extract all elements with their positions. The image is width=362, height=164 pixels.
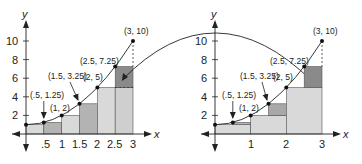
right-rect-3-extra xyxy=(304,67,322,88)
left-y-tick-6: 6 xyxy=(12,72,18,84)
right-y-tick-6: 6 xyxy=(201,72,207,84)
right-rect-1 xyxy=(215,125,251,134)
left-x-axis-arrow-left xyxy=(12,131,20,137)
riemann-sum-diagram: x y 2 4 6 8 10 .5 1 1.5 2 2.5 3 xyxy=(0,0,362,164)
left-x-tick-3: 3 xyxy=(130,138,136,150)
left-rect-2 xyxy=(44,122,62,134)
right-y-axis-arrow-up xyxy=(212,20,218,28)
left-point-label-3: (3, 10) xyxy=(124,26,149,36)
right-rect-2 xyxy=(251,115,287,134)
right-y-tick-2: 2 xyxy=(201,109,207,121)
right-x-ticks: 1 2 3 xyxy=(248,138,325,150)
left-x-tick-1: 1 xyxy=(59,138,65,150)
left-x-axis-arrow-right xyxy=(144,131,152,137)
right-y-axis-label: y xyxy=(210,8,218,20)
right-y-tick-10: 10 xyxy=(195,35,207,47)
left-y-axis-label: y xyxy=(21,8,29,20)
right-point-label-0.5: (.5, 1.25) xyxy=(222,90,256,100)
right-x-axis-arrow-right xyxy=(333,131,341,137)
right-point-label-2: (2, 5) xyxy=(273,72,293,82)
left-point-label-1: (1, 2) xyxy=(50,103,70,113)
left-chart: x y 2 4 6 8 10 .5 1 1.5 2 2.5 3 xyxy=(6,8,160,152)
right-point-label-3: (3, 10) xyxy=(313,26,338,36)
left-y-tick-8: 8 xyxy=(12,54,18,66)
left-rect-6-base xyxy=(115,88,133,135)
right-x-axis-arrow-left xyxy=(201,131,209,137)
left-point-label-2.5: (2.5, 7.25) xyxy=(80,56,119,66)
left-point-label-0.5: (.5, 1.25) xyxy=(30,90,64,100)
left-x-tick-1.5: 1.5 xyxy=(72,138,87,150)
right-point-label-1: (1, 2) xyxy=(239,103,259,113)
left-y-axis-arrow-down xyxy=(23,144,29,152)
right-rect-1-extra xyxy=(233,122,251,124)
left-y-axis-arrow-up xyxy=(23,20,29,28)
left-rect-4 xyxy=(80,104,98,134)
left-x-tick-0.5: .5 xyxy=(41,138,50,150)
left-point-label-1.5: (1.5, 3.25) xyxy=(48,71,87,81)
right-pointer-1.5 xyxy=(262,82,267,100)
right-x-tick-2: 2 xyxy=(283,138,289,150)
right-point-label-2.5: (2.5, 7.25) xyxy=(270,56,309,66)
right-x-tick-3: 3 xyxy=(319,138,325,150)
right-y-tick-8: 8 xyxy=(201,54,207,66)
right-x-tick-1: 1 xyxy=(248,138,254,150)
right-rect-3 xyxy=(286,88,322,135)
left-rect-1 xyxy=(26,125,44,134)
left-rect-5 xyxy=(97,88,115,135)
left-point-label-2: (2, 5) xyxy=(83,72,103,82)
right-x-axis-label: x xyxy=(342,128,349,140)
left-y-tick-10: 10 xyxy=(6,35,18,47)
left-y-tick-4: 4 xyxy=(12,91,18,103)
left-rect-3 xyxy=(62,115,80,134)
right-rect-2-extra xyxy=(269,104,287,116)
left-x-tick-2: 2 xyxy=(94,138,100,150)
right-y-axis-arrow-down xyxy=(212,144,218,152)
left-x-ticks: .5 1 1.5 2 2.5 3 xyxy=(41,138,136,150)
right-y-tick-4: 4 xyxy=(201,91,207,103)
left-x-tick-2.5: 2.5 xyxy=(107,138,122,150)
left-pointer-1.5 xyxy=(70,82,78,100)
left-y-tick-2: 2 xyxy=(12,109,18,121)
right-chart: x y 2 4 6 8 10 1 2 3 xyxy=(195,8,349,152)
left-x-axis-label: x xyxy=(153,128,160,140)
